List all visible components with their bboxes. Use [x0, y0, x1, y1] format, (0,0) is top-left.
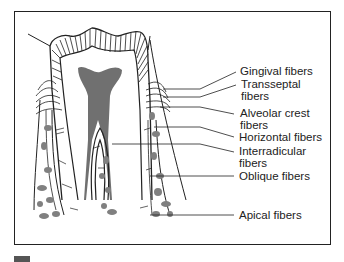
label-apical-fibers: Apical fibers: [239, 209, 302, 221]
label-line: Interradicular: [239, 145, 306, 157]
label-line: fibers: [241, 90, 269, 102]
label-gingival-fibers: Gingival fibers: [240, 65, 313, 77]
label-horizontal-fibers: Horizontal fibers: [239, 131, 322, 143]
label-line: Alveolar crest: [240, 107, 310, 119]
label-alveolar-crest-fibers: Alveolar crestfibers: [240, 107, 310, 131]
pulp-chamber: [78, 67, 122, 200]
leader-lines: [112, 72, 236, 215]
label-line: Transseptal: [241, 78, 301, 90]
label-transseptal-fibers: Transseptalfibers: [241, 78, 301, 102]
figure-marker: [14, 256, 30, 262]
label-oblique-fibers: Oblique fibers: [239, 170, 310, 182]
label-interradicular-fibers: Interradicularfibers: [239, 145, 306, 169]
label-line: fibers: [240, 119, 268, 131]
label-line: fibers: [239, 157, 267, 169]
